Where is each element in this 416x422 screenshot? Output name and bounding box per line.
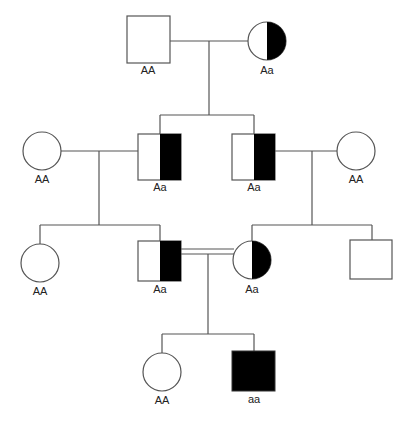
genotype-label-I-1: AA xyxy=(141,64,156,76)
genotype-label-III-1: AA xyxy=(33,285,48,297)
male-unaffected-I-1 xyxy=(127,16,170,63)
female-unaffected-II-4 xyxy=(337,132,375,170)
male-unaffected-III-4 xyxy=(350,240,392,279)
genotype-label-IV-1: AA xyxy=(155,394,170,406)
female-carrier-III-3 xyxy=(233,241,271,279)
genotype-label-II-1: AA xyxy=(35,173,50,185)
female-unaffected-II-1 xyxy=(23,132,61,170)
female-carrier-I-2 xyxy=(248,22,286,60)
pedigree-lines xyxy=(0,0,416,422)
female-unaffected-III-1 xyxy=(21,244,59,282)
pedigree-chart: AA Aa AA Aa Aa AA AA Aa Aa AA aa xyxy=(0,0,416,422)
genotype-label-III-3: Aa xyxy=(245,283,258,295)
genotype-label-IV-2: aa xyxy=(248,393,260,405)
genotype-label-II-2: Aa xyxy=(153,181,166,193)
genotype-label-III-2: Aa xyxy=(153,283,166,295)
male-carrier-II-2 xyxy=(138,134,181,180)
female-unaffected-IV-1 xyxy=(143,353,181,391)
male-carrier-III-2 xyxy=(138,241,181,281)
male-carrier-II-3 xyxy=(232,134,275,180)
genotype-label-II-4: AA xyxy=(349,173,364,185)
male-affected-IV-2 xyxy=(232,351,275,391)
genotype-label-I-2: Aa xyxy=(260,64,273,76)
genotype-label-II-3: Aa xyxy=(247,181,260,193)
